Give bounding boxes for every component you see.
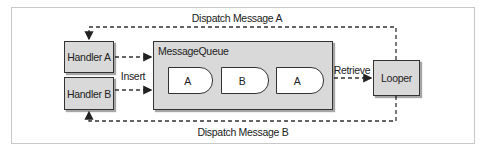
queue-token: A <box>276 67 324 94</box>
handler-b-node: Handler B <box>64 77 114 110</box>
message-queue-node: MessageQueue A B A <box>153 41 333 110</box>
handler-b-label: Handler B <box>67 88 111 100</box>
dispatch-b-label: Dispatch Message B <box>198 126 289 138</box>
message-queue-label: MessageQueue <box>158 45 229 57</box>
queue-token: A <box>168 67 213 94</box>
retrieve-label: Retrieve <box>334 64 371 76</box>
queue-token-label: A <box>184 75 191 87</box>
queue-token: B <box>221 67 269 94</box>
handler-a-label: Handler A <box>67 51 110 63</box>
queue-token-label: B <box>239 75 246 87</box>
dispatch-a-label: Dispatch Message A <box>192 12 282 24</box>
looper-label: Looper <box>381 72 412 84</box>
handler-a-node: Handler A <box>64 41 114 73</box>
queue-token-label: A <box>294 75 301 87</box>
looper-node: Looper <box>373 60 420 96</box>
insert-label: Insert <box>121 70 145 82</box>
